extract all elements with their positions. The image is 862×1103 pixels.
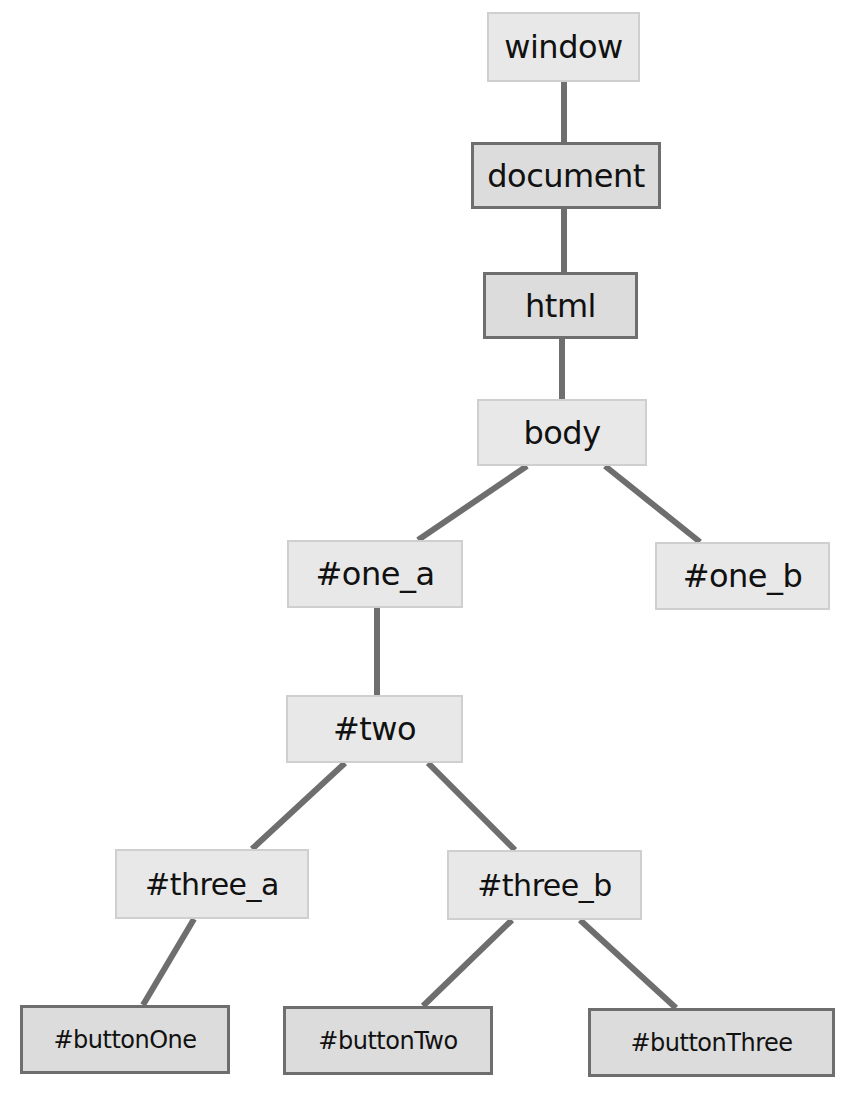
node-one-a: #one_a — [287, 540, 463, 608]
node-html: html — [483, 272, 638, 339]
node-one-b: #one_b — [655, 542, 830, 610]
node-three-b: #three_b — [447, 850, 642, 920]
node-body: body — [477, 399, 647, 466]
node-three-a: #three_a — [115, 849, 309, 919]
node-label: #three_b — [477, 868, 612, 903]
node-label: window — [504, 28, 622, 66]
node-label: #buttonThree — [630, 1029, 792, 1057]
node-buttonthree: #buttonThree — [588, 1008, 835, 1077]
node-label: html — [525, 287, 596, 325]
edge-body-to-one_b — [605, 466, 700, 542]
node-document: document — [471, 142, 661, 209]
node-label: #buttonOne — [53, 1026, 196, 1054]
edge-three_a-to-buttonOne — [143, 919, 194, 1005]
node-label: body — [523, 414, 600, 452]
node-label: #one_b — [683, 557, 803, 595]
node-buttonone: #buttonOne — [20, 1005, 230, 1074]
edge-body-to-one_a — [418, 466, 527, 540]
node-two: #two — [286, 695, 463, 763]
node-label: document — [487, 157, 644, 195]
node-buttontwo: #buttonTwo — [283, 1006, 493, 1075]
node-label: #two — [333, 710, 416, 748]
edge-two-to-three_a — [252, 763, 345, 849]
edge-three_b-to-buttonThree — [580, 920, 676, 1008]
edge-two-to-three_b — [428, 763, 515, 850]
node-label: #one_a — [316, 555, 435, 593]
node-label: #buttonTwo — [318, 1027, 457, 1055]
node-window: window — [487, 12, 640, 82]
edge-three_b-to-buttonTwo — [423, 920, 512, 1006]
node-label: #three_a — [145, 867, 279, 902]
